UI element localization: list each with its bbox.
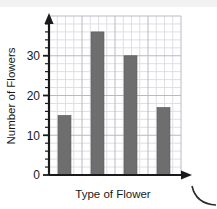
corner-arc-icon	[192, 186, 216, 205]
bar-chart-figure: 0 10 20 30 Number of Flowers Type of Flo…	[0, 0, 217, 209]
bar-item	[91, 32, 104, 175]
y-tick-label-20: 20	[27, 89, 41, 103]
bar-item	[157, 107, 170, 175]
x-axis-arrow-icon	[181, 170, 192, 179]
y-axis-title: Number of Flowers	[5, 47, 17, 144]
bar-item	[58, 115, 71, 175]
chart-canvas: 0 10 20 30 Number of Flowers Type of Flo…	[0, 0, 217, 209]
y-tick-label-0: 0	[33, 168, 40, 182]
y-tick-label-10: 10	[27, 129, 41, 143]
bar-item	[124, 56, 137, 175]
x-axis-title: Type of Flower	[75, 188, 151, 200]
y-tick-label-30: 30	[27, 49, 41, 63]
